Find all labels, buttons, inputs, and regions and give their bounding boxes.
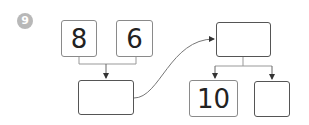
question-number-badge: 9 xyxy=(17,13,33,29)
number-box-6: 6 xyxy=(116,20,153,57)
answer-box-bottom-right[interactable] xyxy=(254,81,290,117)
answer-box-top-right[interactable] xyxy=(216,22,271,57)
answer-box-sum[interactable] xyxy=(78,80,134,115)
number-box-10: 10 xyxy=(189,80,238,117)
number-box-8: 8 xyxy=(61,20,97,57)
